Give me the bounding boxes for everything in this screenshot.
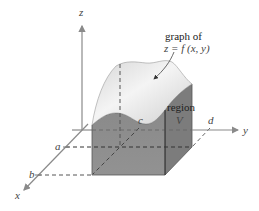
annotation-line1: graph of <box>165 30 202 42</box>
annotation-line2: z = f (x, y) <box>163 42 210 55</box>
z-axis-label: z <box>78 6 84 18</box>
bound-d-label: d <box>208 114 214 126</box>
bound-b-label: b <box>29 168 35 180</box>
dashed-line-d <box>192 128 210 147</box>
x-axis <box>24 124 88 190</box>
bound-c-label: c <box>138 114 143 126</box>
x-axis-label: x <box>14 189 20 201</box>
y-axis-label: y <box>242 124 248 136</box>
volume-diagram: z y x a b c d graph of z = f (x, y) regi… <box>0 0 259 211</box>
bound-a-label: a <box>55 140 61 152</box>
region-label-line1: region <box>167 101 196 113</box>
